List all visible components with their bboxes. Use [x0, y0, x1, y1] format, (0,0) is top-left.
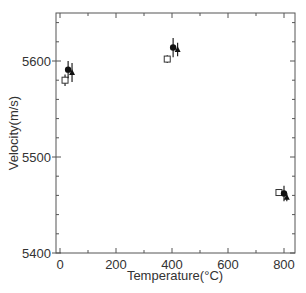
- data-points: [62, 38, 290, 201]
- y-tick-label: 5400: [22, 246, 51, 261]
- x-tick-label: 0: [56, 257, 63, 272]
- data-point-filled-circle: [65, 61, 71, 78]
- y-tick-label: 5600: [22, 54, 51, 69]
- circle-marker-icon: [65, 66, 71, 72]
- data-point-filled-triangle: [69, 63, 75, 82]
- y-tick-label: 5500: [22, 150, 51, 165]
- x-tick-label: 200: [105, 257, 127, 272]
- tick-labels: 0200400600800540055005600: [22, 54, 295, 272]
- scatter-chart: 0200400600800540055005600 Temperature(°C…: [0, 0, 306, 293]
- data-point-open-square: [62, 74, 68, 86]
- y-axis-label: Velocity(m/s): [6, 96, 21, 170]
- square-marker-icon: [62, 77, 68, 83]
- x-axis-label: Temperature(°C): [127, 268, 223, 283]
- data-point-filled-circle: [170, 38, 176, 57]
- data-point-open-square: [164, 55, 170, 63]
- x-tick-label: 800: [273, 257, 295, 272]
- circle-marker-icon: [170, 44, 176, 50]
- square-marker-icon: [164, 56, 170, 62]
